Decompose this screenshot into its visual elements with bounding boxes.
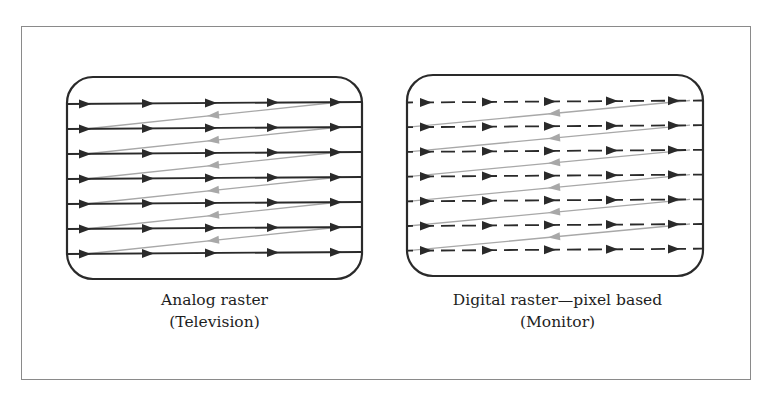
caption-subtitle: (Monitor) [420,311,695,333]
raster-scan-diagram [0,0,771,404]
caption-title: Digital raster—pixel based [420,289,695,311]
analog-raster-panel [67,77,362,279]
caption-subtitle: (Television) [107,311,322,333]
digital-raster-caption: Digital raster—pixel based (Monitor) [420,289,695,333]
caption-title: Analog raster [107,289,322,311]
analog-raster-caption: Analog raster (Television) [107,289,322,333]
digital-raster-panel [407,75,703,276]
